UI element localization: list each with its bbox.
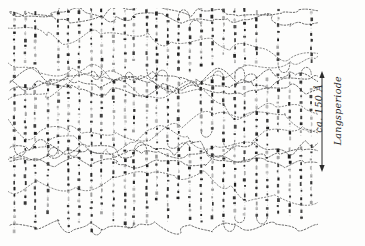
polymer-lamellae-drawing bbox=[0, 0, 365, 246]
long-period-name-label: Langsperiode bbox=[332, 76, 343, 145]
chain-stems-group bbox=[13, 0, 313, 233]
long-period-value-label: ca. 150 Å bbox=[313, 84, 324, 133]
figure-canvas: ca. 150 Å Langsperiode bbox=[0, 0, 365, 246]
